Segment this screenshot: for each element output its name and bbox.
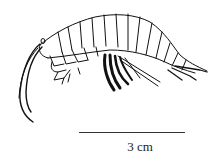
scale-label: 3 cm	[118, 140, 162, 154]
scale-bar	[79, 132, 185, 133]
amphipod-illustration	[0, 0, 215, 160]
